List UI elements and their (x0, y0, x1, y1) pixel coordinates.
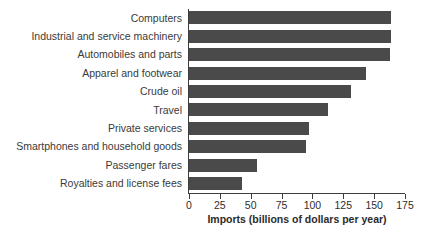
x-tick-label: 50 (245, 199, 257, 211)
category-label: Industrial and service machinery (0, 31, 185, 42)
bar-rows (189, 9, 405, 193)
bar-row (189, 138, 405, 156)
bar-row (189, 119, 405, 137)
bar-row (189, 64, 405, 82)
bar-row (189, 101, 405, 119)
bar (189, 30, 391, 43)
bar (189, 140, 306, 153)
x-axis-tick-labels: 0255075100125150175 (189, 199, 405, 213)
bar (189, 85, 351, 98)
plot-area (189, 9, 405, 193)
category-label: Computers (0, 13, 185, 24)
bar-row (189, 27, 405, 45)
x-tick-label: 100 (304, 199, 322, 211)
bar (189, 11, 391, 24)
category-label: Crude oil (0, 86, 185, 97)
bar-chart: ComputersIndustrial and service machiner… (0, 0, 423, 232)
bar-row (189, 83, 405, 101)
category-label: Travel (0, 105, 185, 116)
x-tick-label: 175 (396, 199, 414, 211)
bar (189, 177, 242, 190)
x-tick-label: 0 (186, 199, 192, 211)
category-axis-labels: ComputersIndustrial and service machiner… (0, 9, 185, 193)
x-tick-label: 125 (335, 199, 353, 211)
bar (189, 48, 390, 61)
bar-row (189, 156, 405, 174)
bar-row (189, 175, 405, 193)
category-label: Apparel and footwear (0, 68, 185, 79)
x-axis-title: Imports (billions of dollars per year) (189, 213, 405, 225)
bar-row (189, 9, 405, 27)
category-label: Smartphones and household goods (0, 141, 185, 152)
category-label: Private services (0, 123, 185, 134)
bar (189, 103, 328, 116)
x-tick-label: 150 (365, 199, 383, 211)
x-tick-label: 25 (214, 199, 226, 211)
category-label: Automobiles and parts (0, 49, 185, 60)
x-tick-label: 75 (276, 199, 288, 211)
bar (189, 67, 366, 80)
bar-row (189, 46, 405, 64)
bar (189, 122, 309, 135)
bar (189, 159, 257, 172)
category-label: Royalties and license fees (0, 178, 185, 189)
category-label: Passenger fares (0, 160, 185, 171)
